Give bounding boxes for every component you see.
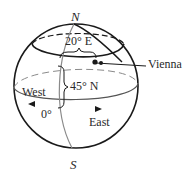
vienna-dot bbox=[92, 59, 97, 64]
longitude-label: 20° E bbox=[65, 35, 92, 47]
vienna-label: Vienna bbox=[148, 58, 182, 70]
east-label: East bbox=[89, 116, 110, 128]
north-label: N bbox=[71, 10, 80, 23]
latitude-label: 45° N bbox=[70, 80, 98, 92]
west-arrow-icon bbox=[28, 101, 35, 107]
prime-meridian-label: 0° bbox=[41, 108, 52, 120]
vienna-pointer-line bbox=[96, 63, 146, 66]
longitude-value: 20° E bbox=[65, 34, 92, 48]
west-label: West bbox=[22, 86, 46, 98]
vienna-dot-2 bbox=[99, 61, 103, 65]
east-arrow-icon bbox=[95, 106, 102, 112]
globe-diagram: N S 20° E 45° N Vienna 0° West East bbox=[0, 0, 193, 180]
south-label: S bbox=[70, 158, 77, 171]
